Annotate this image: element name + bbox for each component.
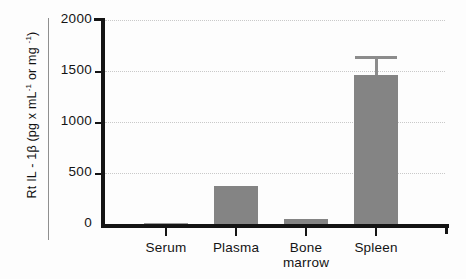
x-tick-spleen bbox=[375, 228, 377, 236]
x-category-label-spleen: Spleen bbox=[331, 240, 421, 255]
y-tick-500 bbox=[95, 173, 102, 175]
y-axis-title-units-suffix: ) bbox=[25, 32, 39, 36]
y-axis-title-sup-2: -1 bbox=[24, 36, 33, 44]
x-tick-plasma bbox=[235, 228, 237, 236]
y-tick-label-2000: 2000 bbox=[32, 11, 92, 26]
y-tick-1500 bbox=[95, 71, 102, 73]
bar-serum bbox=[144, 223, 188, 224]
y-axis-top-cap bbox=[94, 18, 102, 21]
y-tick-label-1500: 1500 bbox=[32, 62, 92, 77]
gridline-1500 bbox=[105, 71, 445, 72]
error-bar-cap-spleen bbox=[355, 56, 397, 59]
y-tick-label-1000: 1000 bbox=[32, 113, 92, 128]
x-tick-bone-marrow bbox=[305, 228, 307, 236]
y-axis-title-rule bbox=[48, 18, 49, 240]
bar-spleen bbox=[354, 75, 398, 224]
plot-inner: 0500100015002000SerumPlasmaBone marrowSp… bbox=[101, 20, 445, 224]
gridline-2000 bbox=[105, 20, 445, 21]
y-tick-label-0: 0 bbox=[32, 215, 92, 230]
x-axis-end-cap bbox=[445, 224, 448, 234]
y-tick-label-500: 500 bbox=[32, 164, 92, 179]
y-axis-title-sup-1: -1 bbox=[24, 84, 33, 92]
y-tick-1000 bbox=[95, 122, 102, 124]
x-tick-serum bbox=[165, 228, 167, 236]
x-axis-line bbox=[101, 224, 449, 228]
bar-bone-marrow bbox=[284, 219, 328, 224]
plot-area: 0500100015002000SerumPlasmaBone marrowSp… bbox=[101, 20, 445, 224]
figure-container: Rt IL - 1β (pg x mL-1 or mg -1) 05001000… bbox=[0, 0, 466, 279]
bar-plasma bbox=[214, 186, 258, 224]
